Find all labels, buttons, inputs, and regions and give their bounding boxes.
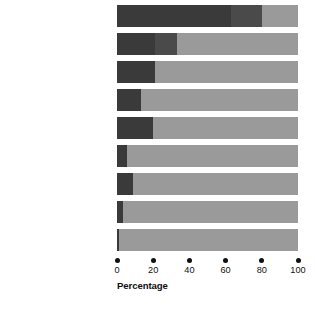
- chart-row: [0, 56, 315, 84]
- bar-track: [117, 61, 298, 83]
- bar-track: [117, 145, 298, 167]
- axis-tick-dot: [115, 258, 120, 263]
- bar-segment-dark: [117, 117, 153, 139]
- chart-row: [0, 84, 315, 112]
- bar-segment-light: [119, 229, 298, 251]
- axis-tick-label: 20: [148, 265, 158, 275]
- axis-tick-label: 60: [220, 265, 230, 275]
- bar-track: [117, 229, 298, 251]
- category-label: [4, 0, 112, 28]
- bar-segment-dark: [117, 5, 231, 27]
- bar-segment-light: [141, 89, 298, 111]
- axis-tick-dot: [187, 258, 192, 263]
- category-label: [4, 196, 112, 224]
- axis-tick-label: 40: [184, 265, 194, 275]
- axis-tick-label: 0: [114, 265, 119, 275]
- chart-row: [0, 224, 315, 252]
- x-axis: Percentage 020406080100: [0, 258, 315, 310]
- bar-segment-light: [127, 145, 298, 167]
- stacked-bar-chart: Percentage 020406080100: [0, 0, 315, 310]
- bar-segment-mid: [155, 33, 177, 55]
- axis-tick-dot: [259, 258, 264, 263]
- axis-tick-dot: [151, 258, 156, 263]
- bar-segment-light: [133, 173, 298, 195]
- axis-tick-dot: [296, 258, 301, 263]
- bar-segment-dark: [117, 89, 141, 111]
- axis-tick-label: 100: [290, 265, 305, 275]
- bar-segment-light: [262, 5, 298, 27]
- category-label: [4, 84, 112, 112]
- bar-segment-dark: [117, 145, 127, 167]
- chart-row: [0, 112, 315, 140]
- bar-track: [117, 173, 298, 195]
- bar-track: [117, 201, 298, 223]
- category-label: [4, 140, 112, 168]
- bar-segment-light: [177, 33, 298, 55]
- bar-segment-dark: [117, 61, 155, 83]
- category-label: [4, 168, 112, 196]
- axis-tick-dot: [223, 258, 228, 263]
- bar-track: [117, 89, 298, 111]
- bar-track: [117, 117, 298, 139]
- category-label: [4, 56, 112, 84]
- bar-segment-light: [153, 117, 298, 139]
- category-label: [4, 28, 112, 56]
- category-label: [4, 112, 112, 140]
- bar-segment-mid: [231, 5, 262, 27]
- chart-row: [0, 28, 315, 56]
- category-label: [4, 224, 112, 252]
- bar-segment-dark: [117, 33, 155, 55]
- bar-track: [117, 5, 298, 27]
- chart-row: [0, 140, 315, 168]
- chart-rows: [0, 0, 315, 252]
- chart-row: [0, 196, 315, 224]
- bar-track: [117, 33, 298, 55]
- bar-segment-dark: [117, 173, 133, 195]
- chart-row: [0, 0, 315, 28]
- x-axis-title: Percentage: [117, 280, 168, 291]
- bar-segment-light: [155, 61, 298, 83]
- axis-tick-label: 80: [257, 265, 267, 275]
- bar-segment-light: [123, 201, 298, 223]
- chart-row: [0, 168, 315, 196]
